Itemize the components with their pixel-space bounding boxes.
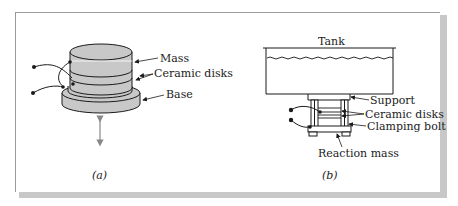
terminal-dot [289,108,293,112]
terminal-dot [318,110,322,114]
terminal-dot [68,60,72,64]
terminal-dot [289,118,293,122]
label-ceramic-disks-b: Ceramic disks [365,109,444,120]
label-reaction-mass: Reaction mass [318,148,399,159]
label-base: Base [166,89,193,100]
label-clamping-bolt: Clamping bolt [367,121,446,132]
terminal-dot [61,85,65,89]
support-b [308,94,350,100]
terminal-dot [308,125,312,129]
label-tank: Tank [318,36,345,47]
accelerometer-a [62,44,140,113]
label-support: Support [370,95,415,106]
terminal-dot [71,82,75,86]
reaction-mass-b [308,126,351,136]
label-mass: Mass [160,53,189,64]
terminal-dot [31,91,35,95]
label-ceramic-disks-a: Ceramic disks [154,68,233,79]
caption-b: (b) [322,169,338,182]
tank-b [263,48,396,94]
terminal-dot [32,65,36,69]
wires-a [33,62,72,93]
caption-a: (a) [92,169,107,182]
